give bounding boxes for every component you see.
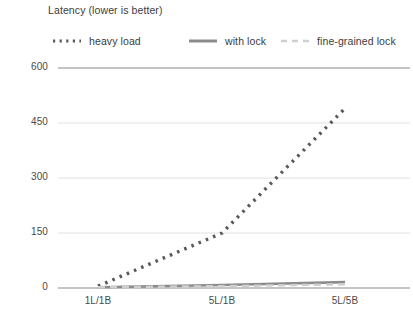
series-line-heavy-load xyxy=(98,108,345,286)
y-tick-label: 0 xyxy=(8,281,48,292)
x-tick-label: 1L/1B xyxy=(63,295,133,306)
latency-chart: Latency (lower is better) heavy load wit… xyxy=(0,0,413,324)
y-tick-label: 450 xyxy=(8,116,48,127)
x-tick-label: 5L/1B xyxy=(187,295,257,306)
plot-area xyxy=(0,0,413,324)
y-tick-label: 300 xyxy=(8,171,48,182)
y-tick-label: 150 xyxy=(8,226,48,237)
x-tick-label: 5L/5B xyxy=(310,295,380,306)
y-tick-label: 600 xyxy=(8,61,48,72)
